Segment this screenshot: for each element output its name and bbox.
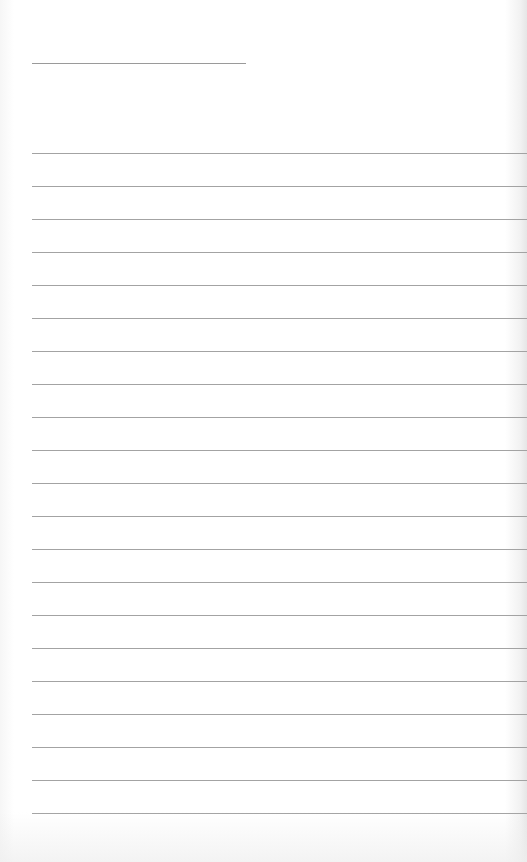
ruled-line [32, 714, 527, 715]
paper-shadow [0, 812, 527, 862]
lined-paper [0, 0, 527, 862]
ruled-line [32, 384, 527, 385]
ruled-line [32, 516, 527, 517]
ruled-line [32, 417, 527, 418]
ruled-line [32, 549, 527, 550]
ruled-line [32, 186, 527, 187]
ruled-line [32, 285, 527, 286]
ruled-line [32, 351, 527, 352]
ruled-line [32, 483, 527, 484]
ruled-line [32, 219, 527, 220]
ruled-line [32, 615, 527, 616]
ruled-line [32, 153, 527, 154]
title-line [32, 63, 246, 64]
ruled-line [32, 747, 527, 748]
ruled-line [32, 318, 527, 319]
ruled-line [32, 681, 527, 682]
ruled-line [32, 648, 527, 649]
ruled-line [32, 780, 527, 781]
ruled-line [32, 582, 527, 583]
ruled-line [32, 252, 527, 253]
ruled-line [32, 450, 527, 451]
